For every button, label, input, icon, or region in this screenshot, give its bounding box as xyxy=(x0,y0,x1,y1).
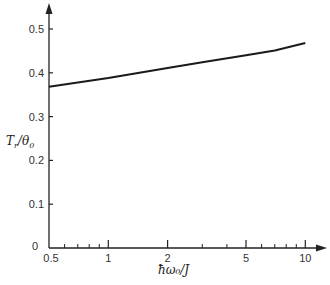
y-tick-label: 0.1 xyxy=(29,198,44,210)
x-ticks: 0.512510 xyxy=(43,240,311,264)
y-tick-label: 0.4 xyxy=(29,67,44,79)
x-axis-label: ħω₀/J xyxy=(158,263,190,277)
y-tick-label: 0.3 xyxy=(29,111,44,123)
y-axis-label: Tr/θ0 xyxy=(6,134,34,150)
y-tick-label: 0.2 xyxy=(29,154,44,166)
x-axis-arrow-icon xyxy=(316,245,327,252)
x-tick-label: 10 xyxy=(299,252,311,264)
y-tick-label: 0.5 xyxy=(29,23,44,35)
axes xyxy=(46,3,328,252)
y-tick-label: 0 xyxy=(32,240,38,252)
x-tick-label: 5 xyxy=(243,252,249,264)
y-axis-arrow-icon xyxy=(46,3,53,14)
x-tick-label: 1 xyxy=(105,252,111,264)
chart: 00.10.20.30.40.5 0.512510 ħω₀/J Tr/θ0 xyxy=(0,0,330,285)
data-curve xyxy=(49,43,305,87)
x-tick-label: 0.5 xyxy=(43,252,58,264)
